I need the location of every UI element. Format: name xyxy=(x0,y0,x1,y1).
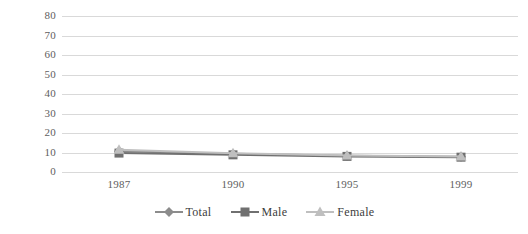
y-tick-label: 60 xyxy=(16,49,56,60)
data-point-square xyxy=(240,208,249,217)
y-tick-label: 20 xyxy=(16,127,56,138)
legend-item-female[interactable]: Female xyxy=(305,205,374,219)
x-tick-label: 1987 xyxy=(108,178,131,190)
y-tick-label: 30 xyxy=(16,108,56,119)
y-tick-label: 10 xyxy=(16,147,56,158)
legend-label: Female xyxy=(337,205,374,219)
legend-label: Male xyxy=(262,205,288,219)
y-tick-label: 70 xyxy=(16,30,56,41)
y-tick-label: 40 xyxy=(16,88,56,99)
x-tick-label: 1990 xyxy=(222,178,245,190)
y-axis: 80706050403020100 xyxy=(12,16,56,172)
chart-legend: TotalMaleFemale xyxy=(0,202,528,222)
y-tick-label: 0 xyxy=(16,166,56,177)
line-chart: 80706050403020100 1987199019951999 Total… xyxy=(0,0,528,234)
y-tick-label: 80 xyxy=(16,10,56,21)
data-point-diamond xyxy=(164,207,174,217)
x-axis: 1987199019951999 xyxy=(62,178,518,194)
x-tick-label: 1995 xyxy=(336,178,359,190)
legend-label: Total xyxy=(186,205,212,219)
plot-area xyxy=(62,16,518,172)
x-tick-label: 1999 xyxy=(450,178,473,190)
legend-item-total[interactable]: Total xyxy=(154,205,212,219)
legend-marker-square-icon xyxy=(230,206,260,218)
legend-marker-diamond-icon xyxy=(154,206,184,218)
series-layer xyxy=(62,16,518,172)
legend-marker-triangle-icon xyxy=(305,206,335,218)
legend-item-male[interactable]: Male xyxy=(230,205,288,219)
gridline xyxy=(62,172,518,173)
y-tick-label: 50 xyxy=(16,69,56,80)
